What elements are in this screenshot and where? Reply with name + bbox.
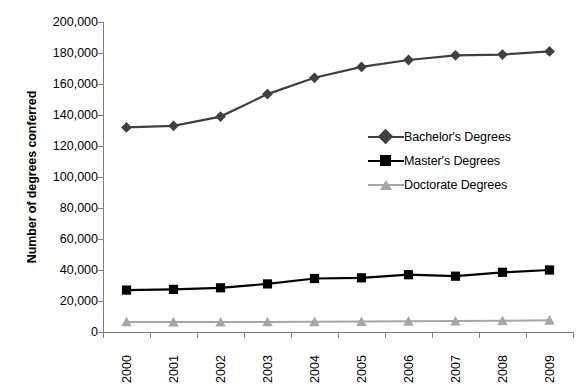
data-point-marker [544, 46, 555, 57]
data-point-marker [263, 279, 272, 288]
data-point-marker [262, 89, 273, 100]
data-point-marker [404, 270, 413, 279]
x-axis-tick-label: 2006 [402, 346, 416, 386]
x-axis-tick-labels: 2000200120022003200420052006200720082009 [103, 340, 573, 386]
y-axis-tick-label: 40,000 [36, 264, 98, 277]
data-point-marker [216, 283, 225, 292]
y-axis-tick [98, 239, 103, 240]
data-point-marker [121, 122, 132, 133]
series-line [127, 320, 550, 322]
diamond-icon [378, 129, 394, 145]
y-axis-tick-label: 180,000 [36, 47, 98, 60]
y-axis-tick [98, 84, 103, 85]
x-axis-tick [291, 333, 292, 338]
series-triangle [121, 315, 554, 326]
y-axis-tick-label: 100,000 [36, 171, 98, 184]
y-axis-tick-label: 60,000 [36, 233, 98, 246]
square-icon [380, 155, 391, 166]
series-square [122, 265, 554, 294]
y-axis-tick-label: 140,000 [36, 109, 98, 122]
y-axis-tick-label: 200,000 [36, 16, 98, 29]
series-diamond [121, 46, 555, 133]
x-axis-tick [338, 333, 339, 338]
x-axis-tick-label: 2002 [214, 346, 228, 386]
legend-item-bachelors[interactable]: Bachelor's Degrees [368, 125, 568, 149]
data-point-marker [356, 62, 367, 73]
data-point-marker [498, 268, 507, 277]
legend-marker-masters [368, 152, 404, 170]
y-axis-tick-labels: 020,00040,00060,00080,000100,000120,0001… [36, 0, 98, 386]
x-axis-tick-label: 2008 [496, 346, 510, 386]
legend-item-doctorate[interactable]: Doctorate Degrees [368, 173, 568, 197]
line-chart: Number of degrees conferred 020,00040,00… [0, 0, 585, 386]
x-axis-tick [526, 333, 527, 338]
x-axis-tick [244, 333, 245, 338]
data-point-marker [357, 273, 366, 282]
x-axis-tick [197, 333, 198, 338]
data-point-marker [450, 50, 461, 61]
y-axis-tick-label: 0 [36, 326, 98, 339]
legend-label-masters: Master's Degrees [404, 154, 500, 168]
legend-label-doctorate: Doctorate Degrees [404, 178, 507, 192]
data-point-marker [451, 272, 460, 281]
data-point-marker [122, 286, 131, 295]
x-axis-tick-label: 2007 [449, 346, 463, 386]
x-axis-tick-label: 2000 [120, 346, 134, 386]
data-point-marker [545, 265, 554, 274]
x-axis-tick [103, 333, 104, 338]
y-axis-tick [98, 270, 103, 271]
y-axis-tick [98, 146, 103, 147]
y-axis-tick [98, 177, 103, 178]
y-axis-tick [98, 22, 103, 23]
data-point-marker [169, 285, 178, 294]
data-point-marker [309, 72, 320, 83]
legend-label-bachelors: Bachelor's Degrees [404, 130, 511, 144]
data-point-marker [403, 55, 414, 66]
x-axis-tick-label: 2001 [167, 346, 181, 386]
y-axis-tick-label: 120,000 [36, 140, 98, 153]
data-point-marker [215, 111, 226, 122]
series-line [127, 51, 550, 127]
x-axis-tick-label: 2005 [355, 346, 369, 386]
chart-legend: Bachelor's Degrees Master's Degrees Doct… [368, 125, 568, 197]
y-axis-tick-label: 80,000 [36, 202, 98, 215]
legend-marker-doctorate [368, 176, 404, 194]
y-axis-tick [98, 115, 103, 116]
x-axis-tick-label: 2009 [543, 346, 557, 386]
y-axis-tick-label: 160,000 [36, 78, 98, 91]
y-axis-tick-label: 20,000 [36, 295, 98, 308]
legend-item-masters[interactable]: Master's Degrees [368, 149, 568, 173]
triangle-icon [380, 180, 392, 190]
y-axis-tick [98, 301, 103, 302]
data-point-marker [310, 274, 319, 283]
y-axis-tick [98, 53, 103, 54]
x-axis-tick [573, 333, 574, 338]
legend-marker-bachelors [368, 128, 404, 146]
data-point-marker [497, 49, 508, 60]
x-axis-tick-label: 2004 [308, 346, 322, 386]
x-axis-tick [385, 333, 386, 338]
data-point-marker [168, 120, 179, 131]
y-axis-tick [98, 208, 103, 209]
x-axis-tick [432, 333, 433, 338]
x-axis-tick-label: 2003 [261, 346, 275, 386]
x-axis-tick [479, 333, 480, 338]
x-axis-tick [150, 333, 151, 338]
series-line [127, 270, 550, 290]
